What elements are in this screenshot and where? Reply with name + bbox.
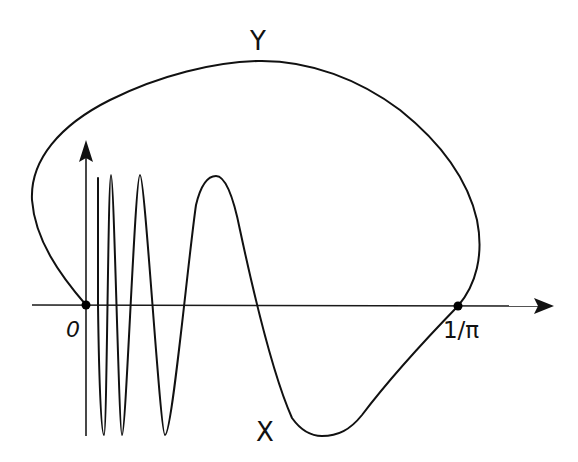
origin-point bbox=[82, 301, 91, 310]
label-one-over-pi: 1/π bbox=[443, 317, 479, 343]
label-y: Y bbox=[249, 26, 266, 56]
figure-x-y-topologist-sine-curve: Y X 0 1/π bbox=[0, 0, 578, 462]
label-origin: 0 bbox=[66, 317, 80, 342]
one-over-pi-point bbox=[454, 302, 463, 311]
diagram-canvas: Y X 0 1/π bbox=[0, 0, 578, 462]
curve-y bbox=[32, 61, 480, 306]
label-x: X bbox=[256, 417, 274, 447]
